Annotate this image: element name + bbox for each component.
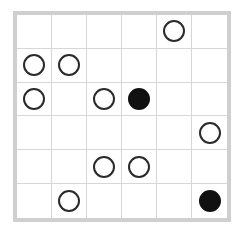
grid-cell-r4-c5[interactable] xyxy=(192,150,227,184)
grid-cell-r1-c0[interactable] xyxy=(17,49,52,83)
grid-cell-r4-c4[interactable] xyxy=(157,150,192,184)
grid-cell-r2-c3[interactable] xyxy=(122,83,157,117)
white-pearl-icon xyxy=(58,190,80,212)
grid-cell-r2-c1[interactable] xyxy=(52,83,87,117)
white-pearl-icon xyxy=(163,20,185,42)
grid-cell-r2-c4[interactable] xyxy=(157,83,192,117)
grid-cell-r4-c0[interactable] xyxy=(17,150,52,184)
white-pearl-icon xyxy=(128,156,150,178)
grid-cell-r4-c2[interactable] xyxy=(87,150,122,184)
grid-cell-r1-c4[interactable] xyxy=(157,49,192,83)
grid-cell-r0-c3[interactable] xyxy=(122,15,157,49)
grid-cell-r5-c4[interactable] xyxy=(157,184,192,218)
puzzle-board xyxy=(13,11,231,222)
grid-cell-r5-c5[interactable] xyxy=(192,184,227,218)
grid-cell-r0-c5[interactable] xyxy=(192,15,227,49)
grid-cell-r3-c3[interactable] xyxy=(122,116,157,150)
grid-cell-r4-c3[interactable] xyxy=(122,150,157,184)
grid-cell-r3-c0[interactable] xyxy=(17,116,52,150)
grid-cell-r0-c4[interactable] xyxy=(157,15,192,49)
grid-cell-r1-c5[interactable] xyxy=(192,49,227,83)
grid-cell-r1-c1[interactable] xyxy=(52,49,87,83)
grid-cell-r3-c2[interactable] xyxy=(87,116,122,150)
white-pearl-icon xyxy=(58,54,80,76)
grid-cell-r2-c0[interactable] xyxy=(17,83,52,117)
grid-cell-r5-c3[interactable] xyxy=(122,184,157,218)
grid-cell-r5-c0[interactable] xyxy=(17,184,52,218)
grid-cell-r0-c1[interactable] xyxy=(52,15,87,49)
black-pearl-icon xyxy=(128,88,150,110)
white-pearl-icon xyxy=(93,156,115,178)
black-pearl-icon xyxy=(199,190,221,212)
grid-cell-r3-c1[interactable] xyxy=(52,116,87,150)
grid-cell-r1-c2[interactable] xyxy=(87,49,122,83)
grid-cell-r2-c2[interactable] xyxy=(87,83,122,117)
grid-cell-r3-c5[interactable] xyxy=(192,116,227,150)
grid-cell-r4-c1[interactable] xyxy=(52,150,87,184)
white-pearl-icon xyxy=(23,88,45,110)
grid-cell-r0-c2[interactable] xyxy=(87,15,122,49)
grid-cell-r5-c2[interactable] xyxy=(87,184,122,218)
white-pearl-icon xyxy=(23,54,45,76)
grid-cell-r5-c1[interactable] xyxy=(52,184,87,218)
grid-cell-r3-c4[interactable] xyxy=(157,116,192,150)
white-pearl-icon xyxy=(199,122,221,144)
white-pearl-icon xyxy=(93,88,115,110)
grid-cell-r1-c3[interactable] xyxy=(122,49,157,83)
grid-cell-r0-c0[interactable] xyxy=(17,15,52,49)
grid-cell-r2-c5[interactable] xyxy=(192,83,227,117)
